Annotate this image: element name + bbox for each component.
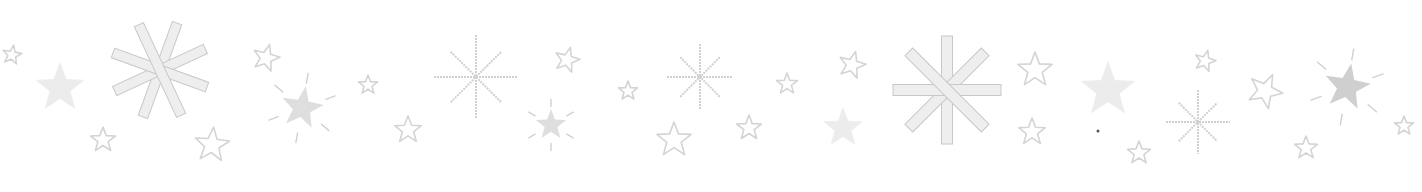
star-outline <box>91 127 116 151</box>
star-outline <box>195 127 229 160</box>
thin-burst-icon <box>1166 90 1230 154</box>
star-fill <box>283 86 324 128</box>
burst-ray <box>296 133 298 143</box>
burst-star-icon <box>1311 49 1383 125</box>
star-outline <box>1249 75 1283 109</box>
burst-ray <box>529 134 535 138</box>
burst-ray <box>567 134 573 138</box>
star-outline <box>1128 141 1151 163</box>
star-outline <box>254 45 280 72</box>
star-outline <box>777 73 798 93</box>
star-outline <box>1295 136 1318 158</box>
decorative-star-border <box>0 0 1422 192</box>
burst-ray <box>1373 74 1383 78</box>
star-fill <box>36 63 84 108</box>
burst-ray <box>275 85 283 91</box>
outline-star-icon <box>657 122 691 155</box>
burst-ray <box>326 96 335 99</box>
filled-star-icon <box>824 108 862 144</box>
outline-star-icon <box>840 52 866 79</box>
outline-star-icon <box>619 81 638 99</box>
star-fill <box>1326 63 1371 108</box>
decorations-layer <box>3 21 1413 162</box>
star-fill <box>1081 62 1134 113</box>
burst-ray <box>1368 105 1376 112</box>
star-outline <box>1196 50 1216 71</box>
star-outline <box>1395 116 1414 134</box>
outline-star-icon <box>1395 116 1414 134</box>
star-outline <box>840 52 866 79</box>
star-pattern-graphic <box>0 0 1422 192</box>
outline-star-icon <box>737 115 762 139</box>
asterisk-bar <box>134 23 185 118</box>
outline-star-icon <box>195 127 229 160</box>
star-outline <box>3 45 22 64</box>
star-outline <box>619 81 638 99</box>
star-outline <box>657 122 691 155</box>
outline-star-icon <box>395 116 422 141</box>
star-outline <box>556 47 580 72</box>
star-outline <box>395 116 422 141</box>
outline-star-icon <box>91 127 116 151</box>
burst-star-icon <box>529 99 573 150</box>
outline-star-icon <box>1196 50 1216 71</box>
burst-ray <box>567 112 573 116</box>
star-fill <box>824 108 862 144</box>
outline-star-icon <box>1128 141 1151 163</box>
outline-star-icon <box>1249 75 1283 109</box>
burst-ray <box>1352 49 1354 60</box>
star-fill <box>536 109 566 138</box>
outline-star-icon <box>3 45 22 64</box>
outline-star-icon <box>1295 136 1318 158</box>
burst-ray <box>529 112 535 116</box>
burst-star-icon <box>269 73 335 142</box>
filled-star-icon <box>1081 62 1134 113</box>
burst-ray <box>321 124 329 130</box>
asterisk-bars-icon <box>893 36 1001 144</box>
dot-icon <box>1097 130 1100 133</box>
burst-ray <box>269 117 278 120</box>
star-outline <box>1018 52 1052 85</box>
outline-star-icon <box>1019 118 1046 143</box>
burst-ray <box>1318 62 1326 69</box>
star-outline <box>359 75 378 93</box>
outline-star-icon <box>359 75 378 93</box>
burst-ray <box>1311 96 1321 100</box>
thin-burst-icon <box>434 35 518 119</box>
speck <box>1097 130 1100 133</box>
burst-ray <box>306 73 308 83</box>
outline-star-icon <box>1018 52 1052 85</box>
outline-star-icon <box>254 45 280 72</box>
burst-ray <box>1340 114 1342 125</box>
outline-star-icon <box>777 73 798 93</box>
star-outline <box>737 115 762 139</box>
star-outline <box>1019 118 1046 143</box>
filled-star-icon <box>36 63 84 108</box>
thin-burst-icon <box>667 44 733 110</box>
asterisk-bars-icon <box>111 21 208 118</box>
outline-star-icon <box>556 47 580 72</box>
